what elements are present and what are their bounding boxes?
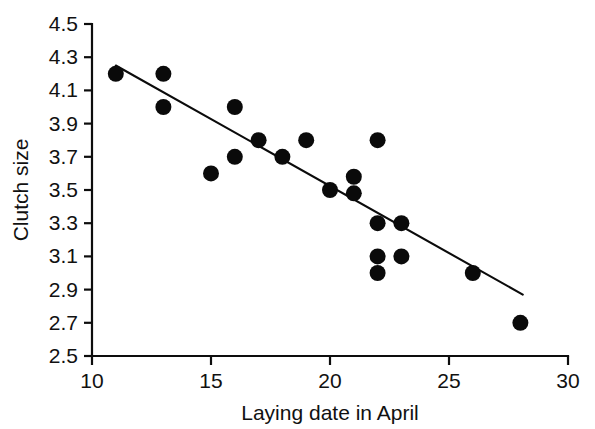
data-point [251,132,267,148]
data-point [370,132,386,148]
y-tick-label: 3.3 [49,211,78,234]
x-tick-label: 30 [556,369,579,392]
y-axis: 2.52.72.93.13.33.53.73.94.14.34.5 [49,12,92,367]
data-point [108,66,124,82]
x-tick-label: 10 [80,369,103,392]
x-axis-ticks [92,356,568,365]
data-point [155,99,171,115]
y-tick-label: 4.3 [49,45,78,68]
y-tick-label: 2.7 [49,311,78,334]
x-tick-label: 15 [199,369,222,392]
data-point [346,185,362,201]
y-axis-title: Clutch size [9,139,32,242]
x-tick-label: 25 [437,369,460,392]
data-point [370,215,386,231]
y-tick-label: 3.5 [49,178,78,201]
x-axis-title: Laying date in April [241,401,418,424]
data-point [155,66,171,82]
data-point [393,215,409,231]
y-tick-label: 4.5 [49,12,78,35]
y-axis-tick-labels: 2.52.72.93.13.33.53.73.94.14.34.5 [49,12,78,367]
data-point [370,248,386,264]
y-tick-label: 3.9 [49,112,78,135]
data-point [512,315,528,331]
plot-canvas: 2.52.72.93.13.33.53.73.94.14.34.5 101520… [0,0,595,429]
data-point [393,248,409,264]
data-point [465,265,481,281]
data-point [227,149,243,165]
x-axis-tick-labels: 1015202530 [80,369,579,392]
data-point [203,165,219,181]
y-tick-label: 3.7 [49,145,78,168]
data-point [274,149,290,165]
y-tick-label: 3.1 [49,244,78,267]
y-tick-label: 2.5 [49,344,78,367]
data-points-layer [108,66,529,331]
regression-line [116,66,523,295]
data-point [346,169,362,185]
data-point [370,265,386,281]
x-tick-label: 20 [318,369,341,392]
scatter-plot-figure: 2.52.72.93.13.33.53.73.94.14.34.5 101520… [0,0,595,429]
y-tick-label: 4.1 [49,78,78,101]
y-axis-ticks [84,24,92,356]
y-tick-label: 2.9 [49,278,78,301]
data-point [322,182,338,198]
x-axis: 1015202530 [80,356,579,392]
data-point [227,99,243,115]
data-point [298,132,314,148]
